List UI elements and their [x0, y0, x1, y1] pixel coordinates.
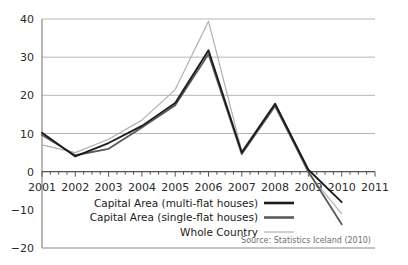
y-axis-tick-label: 0: [27, 166, 34, 179]
x-axis-tick-label: 2003: [95, 181, 123, 194]
source-note: Source: Statistics Iceland (2010): [241, 236, 371, 245]
legend-label-1: Capital Area (single-flat houses): [90, 211, 258, 223]
x-axis-tick-label: 2005: [161, 181, 189, 194]
line-chart: −20−100102030402001200220032004200520062…: [0, 0, 408, 265]
x-axis-tick-label: 2004: [128, 181, 156, 194]
x-axis-tick-label: 2007: [228, 181, 256, 194]
y-axis-tick-label: −20: [11, 242, 34, 255]
legend-label-0: Capital Area (multi-flat houses): [94, 197, 258, 209]
y-axis-tick-label: 10: [20, 128, 34, 141]
x-axis-tick-label: 2006: [195, 181, 223, 194]
y-axis-tick-label: −10: [11, 204, 34, 217]
x-axis-tick-label: 2008: [261, 181, 289, 194]
y-axis-tick-label: 40: [20, 13, 34, 26]
x-axis-tick-label: 2011: [361, 181, 389, 194]
x-axis-tick-label: 2002: [61, 181, 89, 194]
y-axis-tick-label: 30: [20, 51, 34, 64]
series-line-0: [42, 50, 342, 202]
x-axis-tick-label: 2001: [28, 181, 56, 194]
chart-canvas: −20−100102030402001200220032004200520062…: [0, 0, 408, 265]
y-axis-tick-label: 20: [20, 89, 34, 102]
